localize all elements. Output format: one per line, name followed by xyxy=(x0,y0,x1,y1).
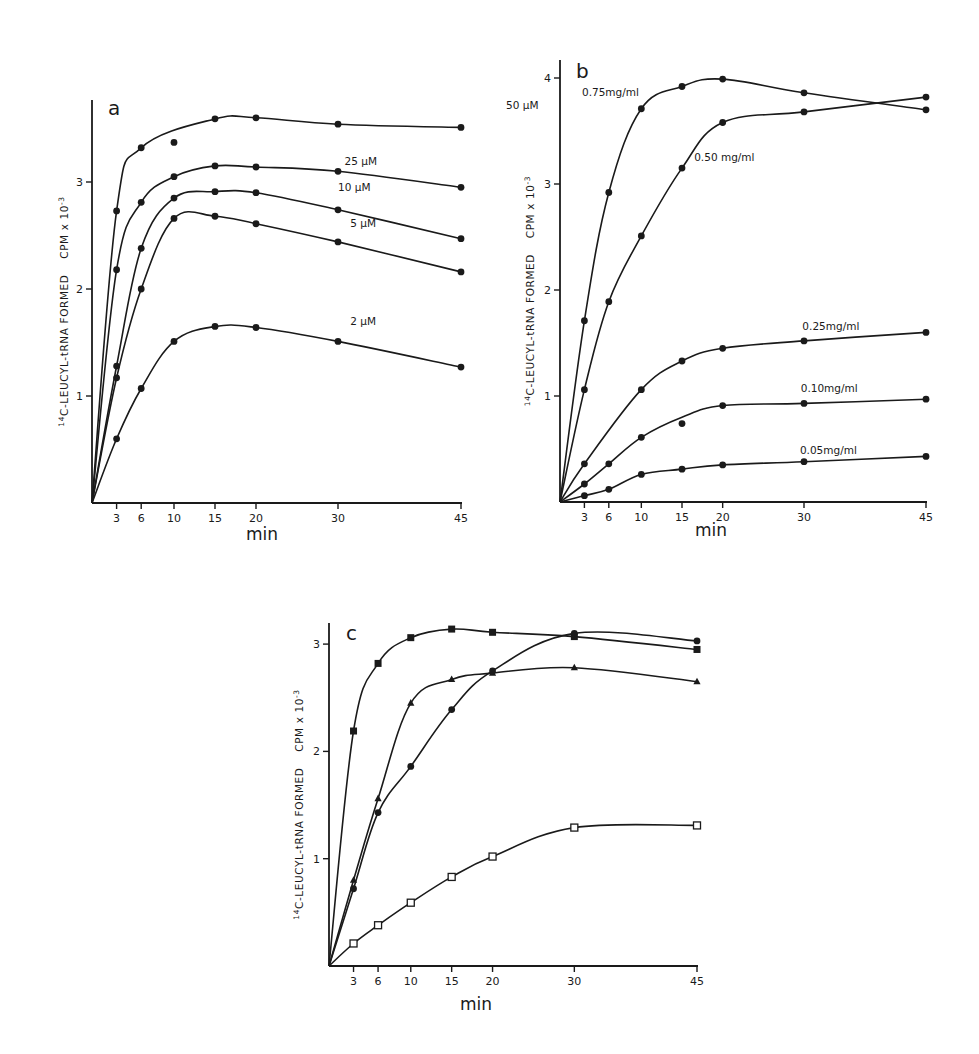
y-tick-label: 1 xyxy=(544,390,551,403)
data-point-circle xyxy=(458,124,465,131)
x-tick-label: 45 xyxy=(454,512,468,525)
data-point-circle xyxy=(335,206,342,213)
data-point-circle xyxy=(638,233,645,240)
series-0-10mg-ml: 0.10mg/ml xyxy=(560,382,929,502)
data-point-circle xyxy=(719,462,726,469)
y-tick-label: 1 xyxy=(313,853,320,866)
data-point-circle xyxy=(253,324,260,331)
data-point-circle xyxy=(458,364,465,371)
data-point-circle xyxy=(212,213,219,220)
curve-line xyxy=(92,116,461,503)
x-axis-label: min xyxy=(246,524,278,544)
panel-c: 361015203045123cmin14C-LEUCYL-tRNA FORME… xyxy=(292,621,704,1014)
data-point-circle xyxy=(638,471,645,478)
x-axis-label: min xyxy=(460,994,492,1014)
series-label: 0.10mg/ml xyxy=(801,382,858,394)
data-point-open-square xyxy=(571,824,578,831)
data-point-square xyxy=(407,634,414,641)
data-point-circle xyxy=(801,337,808,344)
curve-line xyxy=(560,456,926,502)
x-tick-label: 3 xyxy=(581,511,588,524)
series-open-square xyxy=(329,822,701,966)
series-label: 0.05mg/ml xyxy=(800,444,857,456)
data-point-open-square xyxy=(350,940,357,947)
data-point-circle xyxy=(253,189,260,196)
curve-line xyxy=(92,212,461,503)
y-axis-label: 14C-LEUCYL-tRNA FORMED CPM x 10-3 xyxy=(292,689,305,919)
x-tick-label: 30 xyxy=(567,975,581,988)
series-0-75mg-ml: 0.75mg/ml xyxy=(560,76,929,502)
data-point-circle xyxy=(171,195,178,202)
data-point-square xyxy=(350,728,357,735)
data-point-circle xyxy=(923,453,930,460)
data-point-circle xyxy=(638,386,645,393)
x-tick-label: 3 xyxy=(350,975,357,988)
curve-line xyxy=(92,191,461,503)
data-point-open-square xyxy=(489,853,496,860)
y-tick-label: 3 xyxy=(313,638,320,651)
figure: 361015203045123amin14C-LEUCYL-tRNA FORME… xyxy=(0,0,979,1054)
curve-line xyxy=(329,629,697,966)
data-point-circle xyxy=(605,189,612,196)
data-point-circle xyxy=(719,119,726,126)
data-point-circle xyxy=(171,215,178,222)
x-axis-label: min xyxy=(695,520,727,540)
data-point-circle xyxy=(138,245,145,252)
series-label: 10 µM xyxy=(338,181,370,193)
data-point-circle xyxy=(571,630,578,637)
panel-letter: b xyxy=(576,59,589,83)
series-filled-circle xyxy=(329,630,700,966)
data-point-circle xyxy=(694,637,701,644)
curve-line xyxy=(329,632,697,966)
curve-line xyxy=(560,79,926,502)
series-label: 0.75mg/ml xyxy=(582,86,639,98)
data-point-circle xyxy=(679,420,686,427)
chart-canvas: 361015203045123amin14C-LEUCYL-tRNA FORME… xyxy=(0,0,979,1054)
data-point-circle xyxy=(212,115,219,122)
panel-letter: c xyxy=(346,621,357,645)
panel-b: 3610152030451234bmin14C-LEUCYL-tRNA FORM… xyxy=(523,59,933,540)
x-tick-label: 3 xyxy=(113,512,120,525)
series-label: 2 µM xyxy=(350,315,376,327)
data-point-circle xyxy=(801,109,808,116)
data-point-circle xyxy=(212,323,219,330)
y-tick-label: 3 xyxy=(76,176,83,189)
data-point-square xyxy=(375,660,382,667)
data-point-circle xyxy=(212,163,219,170)
data-point-circle xyxy=(448,706,455,713)
data-point-circle xyxy=(923,94,930,101)
x-tick-label: 6 xyxy=(138,512,145,525)
data-point-square xyxy=(489,629,496,636)
data-point-open-square xyxy=(407,899,414,906)
data-point-square xyxy=(448,626,455,633)
curve-line xyxy=(92,165,461,503)
data-point-circle xyxy=(253,114,260,121)
x-tick-label: 15 xyxy=(208,512,222,525)
data-point-circle xyxy=(801,89,808,96)
x-tick-label: 15 xyxy=(445,975,459,988)
data-point-circle xyxy=(605,298,612,305)
data-point-circle xyxy=(375,809,382,816)
y-tick-label: 4 xyxy=(544,72,551,85)
data-point-circle xyxy=(719,345,726,352)
x-tick-label: 20 xyxy=(486,975,500,988)
y-tick-label: 2 xyxy=(544,284,551,297)
y-tick-label: 2 xyxy=(76,283,83,296)
data-point-circle xyxy=(138,385,145,392)
series-label: 0.25mg/ml xyxy=(802,320,859,332)
data-point-open-square xyxy=(375,922,382,929)
data-point-circle xyxy=(138,199,145,206)
data-point-open-square xyxy=(448,873,455,880)
panel-a: 361015203045123amin14C-LEUCYL-tRNA FORME… xyxy=(57,96,539,544)
x-tick-label: 10 xyxy=(404,975,418,988)
x-tick-label: 10 xyxy=(634,511,648,524)
y-tick-label: 3 xyxy=(544,178,551,191)
data-point-circle xyxy=(719,402,726,409)
data-point-circle xyxy=(335,121,342,128)
data-point-circle xyxy=(679,83,686,90)
curve-line xyxy=(329,825,697,966)
data-point-circle xyxy=(638,434,645,441)
x-tick-label: 30 xyxy=(797,511,811,524)
series-label: 5 µM xyxy=(350,217,376,229)
data-point-circle xyxy=(212,188,219,195)
